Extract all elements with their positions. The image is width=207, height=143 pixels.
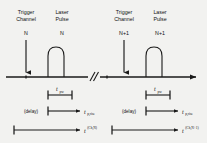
trigger-channel-header-line1-right: Trigger bbox=[116, 9, 133, 15]
pulse-width-subscript-right: pw bbox=[157, 90, 162, 94]
trigger-channel-header-line2-left: Channel bbox=[16, 16, 36, 22]
total-time-superscript-left: (Ch,N) bbox=[87, 126, 98, 131]
timing-diagram-figure: Trigger Channel Laser Pulse N N Trigger … bbox=[0, 0, 207, 143]
total-time-superscript-right: (Ch,N+1) bbox=[185, 126, 199, 131]
total-time-symbol-right: t bbox=[182, 128, 184, 134]
laser-pulse-waveform-right bbox=[146, 47, 162, 77]
timing-diagram-canvas: Trigger Channel Laser Pulse N N Trigger … bbox=[0, 0, 207, 143]
laser-pulse-header-line2-right: Pulse bbox=[153, 16, 166, 22]
laser-index-right: N+1 bbox=[155, 30, 165, 36]
laser-pulse-waveform-left bbox=[48, 47, 64, 77]
total-time-symbol-left: t bbox=[84, 128, 86, 134]
laser-pulse-header-line1-left: Laser bbox=[55, 9, 68, 15]
delay-subscript-left: p,rise bbox=[87, 112, 95, 117]
pulse-width-subscript-left: pw bbox=[59, 90, 64, 94]
laser-pulse-header-line1-right: Laser bbox=[153, 9, 166, 15]
delay-note-left: (delay) bbox=[24, 109, 39, 114]
pulse-width-symbol-left: t bbox=[56, 86, 58, 92]
delay-note-right: (delay) bbox=[122, 109, 137, 114]
pulse-width-symbol-right: t bbox=[154, 86, 156, 92]
trigger-channel-header-line1-left: Trigger bbox=[18, 9, 35, 15]
trigger-channel-header-line2-right: Channel bbox=[114, 16, 134, 22]
delay-symbol-left: t bbox=[84, 109, 86, 115]
trigger-index-left: N bbox=[24, 30, 28, 36]
laser-index-left: N bbox=[60, 30, 64, 36]
delay-symbol-right: t bbox=[182, 109, 184, 115]
trigger-index-right: N+1 bbox=[119, 30, 129, 36]
laser-pulse-header-line2-left: Pulse bbox=[55, 16, 68, 22]
delay-subscript-right: p,rise bbox=[185, 112, 193, 117]
